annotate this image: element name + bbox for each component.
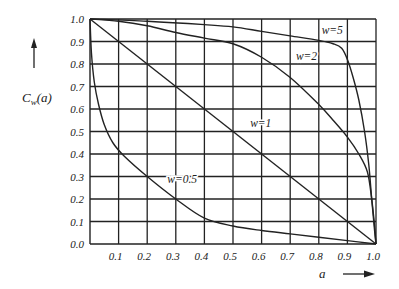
y-tick-label: 0.7	[70, 81, 84, 93]
y-tick-label: 0.5	[70, 126, 84, 138]
y-tick-label: 0.4	[70, 148, 84, 160]
chart-figure: 0.00.10.20.30.40.50.60.70.80.91.0 0.10.2…	[0, 0, 399, 289]
series-label: w=2	[296, 50, 317, 62]
x-tick-labels: 0.10.20.30.40.50.60.70.80.91.0	[109, 250, 381, 262]
x-tick-label: 1.0	[366, 250, 380, 262]
x-tick-label: 0.6	[252, 250, 266, 262]
series-label: w=1	[250, 117, 271, 129]
x-tick-label: 0.4	[195, 250, 209, 262]
y-tick-label: 0.8	[70, 58, 84, 70]
y-tick-label: 0.1	[70, 216, 84, 228]
y-axis-label: Cw(a)	[22, 90, 52, 107]
x-tick-label: 0.9	[338, 250, 352, 262]
line-chart: 0.00.10.20.30.40.50.60.70.80.91.0 0.10.2…	[0, 0, 399, 289]
y-tick-label: 0.3	[70, 171, 84, 183]
series-label: w=5	[322, 24, 343, 36]
series-labels: w=0.5w=1w=2w=5	[167, 24, 343, 186]
y-tick-label: 0.0	[70, 238, 84, 250]
y-axis-arrow-icon	[31, 38, 37, 68]
x-tick-label: 0.1	[109, 250, 123, 262]
x-tick-label: 0.3	[166, 250, 180, 262]
y-tick-labels: 0.00.10.20.30.40.50.60.70.80.91.0	[70, 13, 84, 250]
series-label: w=0.5	[167, 173, 197, 185]
y-tick-label: 1.0	[70, 13, 84, 25]
x-tick-label: 0.8	[309, 250, 323, 262]
x-axis-label: a	[319, 266, 326, 281]
x-tick-label: 0.7	[280, 250, 294, 262]
y-tick-label: 0.2	[70, 193, 84, 205]
x-tick-label: 0.2	[137, 250, 151, 262]
x-axis-arrow-icon	[343, 271, 375, 278]
y-tick-label: 0.9	[70, 36, 84, 48]
x-tick-label: 0.5	[223, 250, 237, 262]
y-tick-label: 0.6	[70, 103, 84, 115]
